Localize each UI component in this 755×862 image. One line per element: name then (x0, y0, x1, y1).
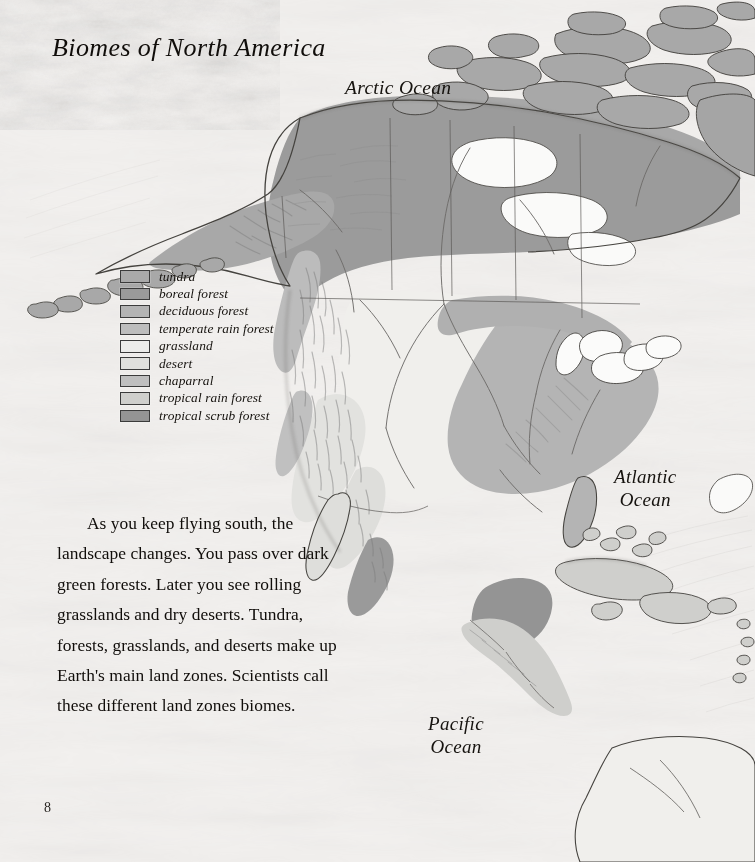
legend-item-chaparral: chaparral (120, 372, 274, 389)
legend-swatch-boreal-forest (120, 288, 150, 301)
legend-label: deciduous forest (159, 303, 248, 319)
biome-map (0, 0, 755, 862)
legend-swatch-chaparral (120, 375, 150, 388)
page-number: 8 (44, 800, 51, 816)
legend-label: tundra (159, 269, 195, 285)
legend-swatch-grassland (120, 340, 150, 353)
legend-label: desert (159, 356, 192, 372)
page-title: Biomes of North America (52, 33, 326, 63)
legend-label: grassland (159, 338, 213, 354)
legend-item-desert: desert (120, 355, 274, 372)
ocean-label-arctic: Arctic Ocean (345, 76, 451, 99)
body-paragraph: As you keep flying south, the landscape … (57, 508, 357, 721)
book-page: Biomes of North America Arctic Ocean Atl… (0, 0, 755, 862)
legend-item-tropical-rain-forest: tropical rain forest (120, 390, 274, 407)
legend-swatch-tropical-rain-forest (120, 392, 150, 405)
map-legend: tundraboreal forestdeciduous foresttempe… (120, 268, 274, 425)
legend-swatch-tundra (120, 270, 150, 283)
ocean-label-pacific: Pacific Ocean (428, 712, 484, 758)
map-illustration (0, 0, 755, 862)
legend-swatch-temperate-rain-forest (120, 323, 150, 336)
legend-item-tropical-scrub-forest: tropical scrub forest (120, 407, 274, 424)
legend-label: chaparral (159, 373, 213, 389)
legend-swatch-deciduous-forest (120, 305, 150, 318)
legend-item-deciduous-forest: deciduous forest (120, 303, 274, 320)
legend-label: tropical rain forest (159, 390, 262, 406)
legend-item-temperate-rain-forest: temperate rain forest (120, 320, 274, 337)
legend-swatch-tropical-scrub-forest (120, 410, 150, 423)
ocean-label-atlantic: Atlantic Ocean (614, 465, 677, 511)
legend-label: boreal forest (159, 286, 228, 302)
legend-item-grassland: grassland (120, 338, 274, 355)
legend-label: tropical scrub forest (159, 408, 269, 424)
legend-swatch-desert (120, 357, 150, 370)
legend-label: temperate rain forest (159, 321, 274, 337)
legend-item-boreal-forest: boreal forest (120, 285, 274, 302)
legend-item-tundra: tundra (120, 268, 274, 285)
